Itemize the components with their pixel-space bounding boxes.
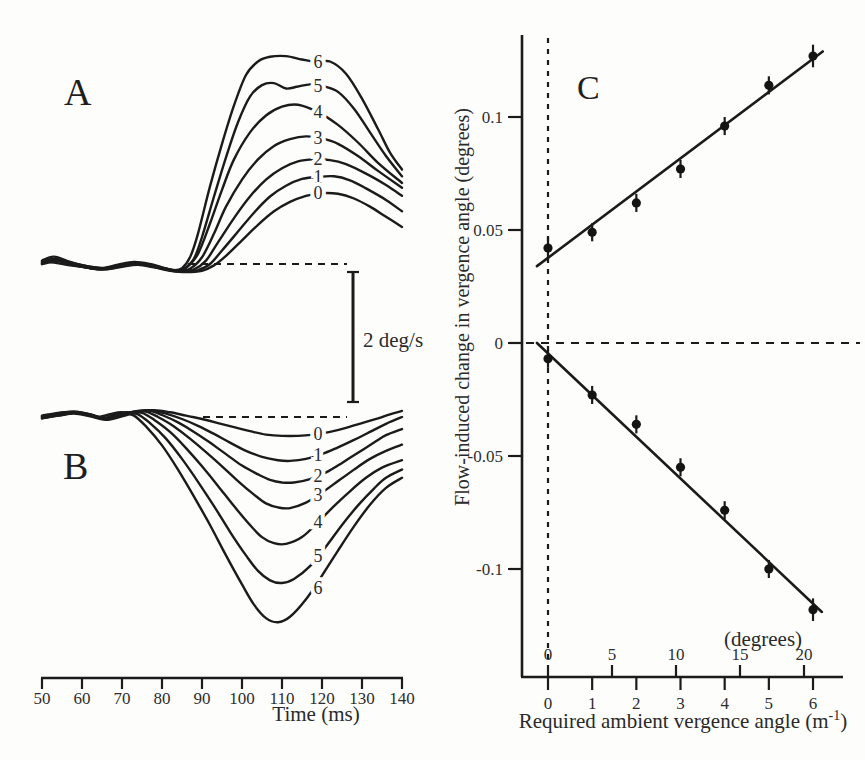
trace-baselines-layer <box>188 264 347 417</box>
trace-label-B-4: 4 <box>314 512 323 532</box>
time-tick-label-50: 50 <box>34 689 51 708</box>
c-x-axis-title: Required ambient vergence angle (m-1) <box>519 708 848 733</box>
c-degrees-tick-label-5: 5 <box>608 645 617 664</box>
trace-label-B-2: 2 <box>314 466 323 486</box>
trace-B-0 <box>42 410 402 436</box>
trace-number-labels-layer: 65432100123456 <box>314 52 323 598</box>
time-tick-label-70: 70 <box>114 689 131 708</box>
trace-label-B-0: 0 <box>314 424 323 444</box>
c-data-point-lower-5 <box>764 564 773 573</box>
c-y-axis-title: Flow-induced change in vergence angle (d… <box>451 108 474 506</box>
trace-A-0 <box>42 193 402 272</box>
c-degrees-tick-label-0: 0 <box>544 645 553 664</box>
trace-label-A-4: 4 <box>314 102 323 122</box>
c-data-point-lower-1 <box>588 390 597 399</box>
c-data-point-lower-2 <box>632 420 641 429</box>
trace-label-A-3: 3 <box>314 128 323 148</box>
trace-B-2 <box>42 411 402 483</box>
c-x-axis-title-close: ) <box>840 709 847 733</box>
figure-svg: 65432100123456 5060708090100110120130140… <box>0 0 865 760</box>
time-tick-label-140: 140 <box>389 689 415 708</box>
time-tick-label-100: 100 <box>229 689 255 708</box>
c-data-point-upper-0 <box>543 243 552 252</box>
c-data-point-lower-6 <box>808 605 817 614</box>
c-x-axis-title-superscript: -1 <box>829 708 841 723</box>
scale-bar-layer <box>347 272 359 402</box>
c-y-tick-label-0.1: 0.1 <box>482 108 503 127</box>
velocity-traces-layer <box>42 56 402 622</box>
c-fit-line-lower <box>537 343 822 612</box>
panel-c-label: C <box>577 69 600 106</box>
trace-label-B-6: 6 <box>314 578 323 598</box>
c-y-tick-label--0.1: -0.1 <box>476 560 503 579</box>
scale-bar-label: 2 deg/s <box>363 328 423 352</box>
c-data-point-upper-6 <box>808 51 817 60</box>
trace-A-5 <box>42 83 402 271</box>
panel-b-label: B <box>63 445 88 487</box>
c-y-tick-label-0: 0 <box>495 334 504 353</box>
c-y-tick-label-0.05: 0.05 <box>473 221 503 240</box>
time-tick-label-60: 60 <box>74 689 91 708</box>
c-data-point-lower-3 <box>676 463 685 472</box>
c-data-point-upper-4 <box>720 121 729 130</box>
time-tick-label-80: 80 <box>154 689 171 708</box>
c-x-axis-title-main: Required ambient vergence angle (m <box>519 709 829 733</box>
panel-c-layer: 0.10.050-0.05-0.1051015200123456 <box>468 35 860 713</box>
c-degrees-tick-label-10: 10 <box>668 645 685 664</box>
figure-page: 65432100123456 5060708090100110120130140… <box>0 0 865 760</box>
trace-label-A-5: 5 <box>314 76 323 96</box>
time-tick-label-90: 90 <box>194 689 211 708</box>
c-data-point-lower-0 <box>543 354 552 363</box>
time-axis-title: Time (ms) <box>272 702 359 726</box>
trace-label-A-0: 0 <box>314 183 323 203</box>
c-degrees-axis-title: (degrees) <box>724 627 802 651</box>
trace-A-4 <box>42 104 402 270</box>
trace-label-B-3: 3 <box>314 485 323 505</box>
c-data-point-upper-2 <box>632 198 641 207</box>
panel-a-label: A <box>64 71 92 113</box>
c-data-point-lower-4 <box>720 506 729 515</box>
c-data-point-upper-1 <box>588 228 597 237</box>
trace-label-A-6: 6 <box>314 52 323 72</box>
trace-label-B-1: 1 <box>314 445 323 465</box>
c-data-point-upper-3 <box>676 164 685 173</box>
trace-label-B-5: 5 <box>314 546 323 566</box>
trace-B-4 <box>42 412 402 544</box>
c-data-point-upper-5 <box>764 81 773 90</box>
